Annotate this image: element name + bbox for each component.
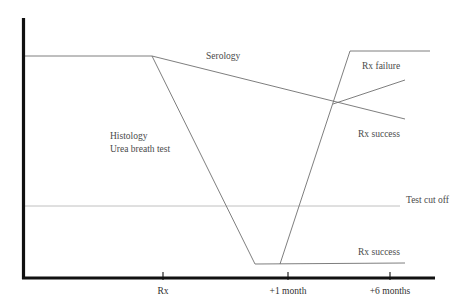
x-tick-label-rx: Rx bbox=[157, 285, 168, 297]
rx-success-bottom-line bbox=[255, 263, 405, 264]
histology-urea-decline-line bbox=[152, 56, 255, 264]
chart-figure: Serology Histology Urea breath test Rx f… bbox=[0, 0, 471, 307]
histology-label: Histology bbox=[110, 130, 170, 143]
rx-failure-label: Rx failure bbox=[362, 60, 400, 72]
rx-success-bottom-label: Rx success bbox=[358, 246, 400, 258]
rx-success-serology-label: Rx success bbox=[358, 128, 400, 140]
urea-breath-test-label: Urea breath test bbox=[110, 143, 170, 156]
test-cut-off-label: Test cut off bbox=[406, 194, 449, 206]
histology-label-group: Histology Urea breath test bbox=[110, 130, 170, 156]
rx-failure-branch-line bbox=[333, 80, 405, 104]
x-tick-label-1-month: +1 month bbox=[270, 285, 307, 297]
serology-label: Serology bbox=[206, 50, 240, 62]
chart-plot-area bbox=[0, 0, 471, 307]
x-tick-label-6-months: +6 months bbox=[370, 285, 410, 297]
rx-failure-rebound-line bbox=[280, 51, 430, 264]
